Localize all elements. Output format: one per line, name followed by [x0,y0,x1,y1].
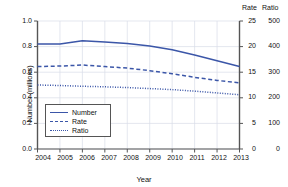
series-line-number [38,41,240,67]
legend-label-rate: Rate [72,118,87,126]
legend-label-number: Number [72,109,97,117]
legend-item-rate: Rate [50,117,106,126]
legend-item-ratio: Ratio [50,126,106,135]
legend-swatch-dotted-icon [50,127,68,134]
legend-swatch-solid-icon [50,109,68,116]
legend: Number Rate Ratio [45,104,111,137]
legend-item-number: Number [50,108,106,117]
plot-area [0,0,288,187]
series-lines [38,41,240,95]
legend-swatch-dashed-icon [50,118,68,125]
series-line-rate [38,65,240,83]
legend-label-ratio: Ratio [72,127,88,135]
series-line-ratio [38,85,240,95]
chart-container: Number (millions) Rate Ratio Year 1.0 0.… [0,0,288,187]
